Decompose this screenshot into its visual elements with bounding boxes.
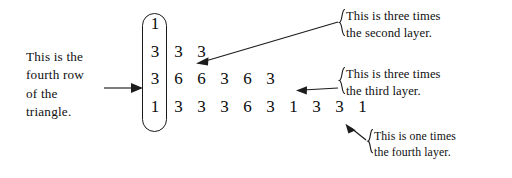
fourth-row-caption-line-3: of the xyxy=(26,85,142,103)
triangle-cell: 3 xyxy=(190,38,213,66)
triangle-cell: 3 xyxy=(259,93,282,121)
fourth-row-caption-line-2: fourth row xyxy=(26,66,142,84)
triangle-row-3: 3 6 6 3 6 3 xyxy=(143,65,374,93)
triangle-cell: 3 xyxy=(213,65,236,93)
triangle-cell: 3 xyxy=(190,93,213,121)
second-layer-caption: This is three times the second layer. xyxy=(346,8,441,42)
fourth-layer-caption-line-1: This is one times xyxy=(374,128,456,144)
third-layer-caption-line-1: This is three times xyxy=(346,66,441,83)
triangle-cell: 3 xyxy=(259,65,282,93)
second-layer-caption-line-2: the second layer. xyxy=(346,25,441,42)
fourth-layer-caption: This is one times the fourth layer. xyxy=(374,128,456,160)
triangle-cell: 6 xyxy=(167,65,190,93)
third-layer-caption-line-2: the third layer. xyxy=(346,83,441,100)
fourth-row-caption-line-1: This is the xyxy=(26,48,142,66)
triangle-cell: 1 xyxy=(282,93,305,121)
triangle-row-1: 1 xyxy=(143,10,374,38)
second-layer-caption-line-1: This is three times xyxy=(346,8,441,25)
fourth-layer-caption-line-2: the fourth layer. xyxy=(374,144,456,160)
number-triangle: 1 3 3 3 3 6 6 3 6 3 1 3 3 3 6 3 1 3 3 1 xyxy=(143,10,374,120)
first-column-highlight-shape xyxy=(142,13,167,132)
triangle-row-4: 1 3 3 3 6 3 1 3 3 1 xyxy=(143,93,374,121)
triangle-cell: 3 xyxy=(305,93,328,121)
triangle-cell: 6 xyxy=(236,93,259,121)
third-layer-caption: This is three times the third layer. xyxy=(346,66,441,100)
triangle-row-2: 3 3 3 xyxy=(143,38,374,66)
arrow-to-fourth-row-head xyxy=(346,124,356,134)
triangle-cell: 3 xyxy=(213,93,236,121)
triangle-cell: 3 xyxy=(167,38,190,66)
triangle-cell: 6 xyxy=(236,65,259,93)
brace-fourth-layer-icon xyxy=(368,130,372,153)
arrow-to-fourth-row-shaft xyxy=(351,128,366,140)
triangle-cell: 6 xyxy=(190,65,213,93)
diagram-canvas: This is the fourth row of the triangle. … xyxy=(0,0,512,178)
fourth-row-caption-line-4: triangle. xyxy=(26,103,142,121)
triangle-cell: 3 xyxy=(167,93,190,121)
fourth-row-caption: This is the fourth row of the triangle. xyxy=(26,48,142,122)
